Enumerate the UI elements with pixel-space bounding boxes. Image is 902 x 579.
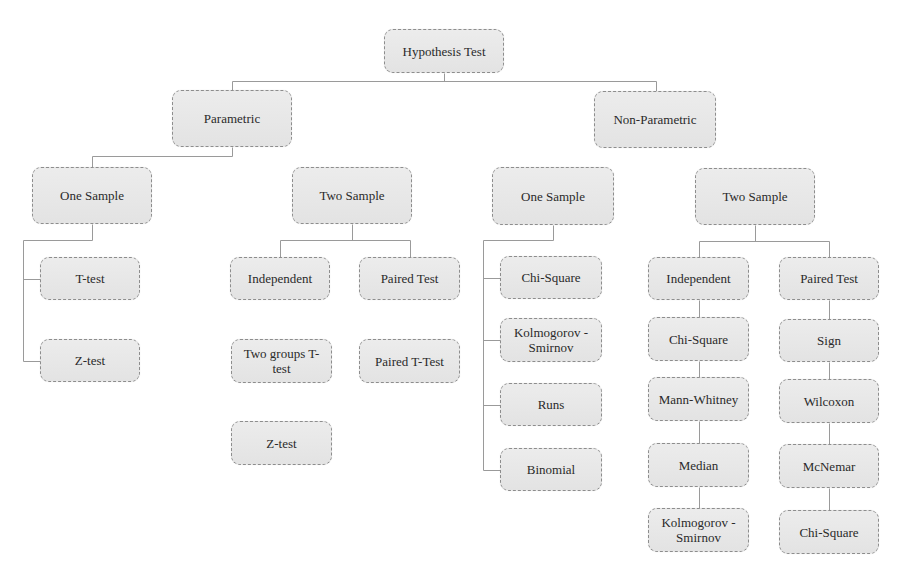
- node-mann-whitney: Mann-Whitney: [648, 377, 749, 421]
- node-sign: Sign: [779, 319, 879, 362]
- node-label: Z-test: [266, 436, 296, 451]
- node-label: One Sample: [60, 188, 124, 203]
- node-label: Kolmogorov - Smirnov: [655, 515, 742, 545]
- node-label: Runs: [538, 397, 565, 412]
- node-parametric-one-sample: One Sample: [32, 167, 152, 224]
- node-label: Mann-Whitney: [659, 392, 738, 407]
- node-paired-chi-square: Chi-Square: [779, 510, 879, 554]
- node-t-test: T-test: [40, 257, 140, 300]
- node-label: Non-Parametric: [613, 112, 696, 127]
- node-label: Two Sample: [319, 188, 384, 203]
- node-label: Kolmogorov - Smirnov: [507, 325, 595, 355]
- node-label: Median: [679, 458, 719, 473]
- node-label: One Sample: [521, 189, 585, 204]
- node-label: Paired Test: [381, 271, 439, 286]
- node-two-groups-t-test: Two groups T-test: [231, 339, 332, 383]
- node-label: Chi-Square: [799, 525, 858, 540]
- node-independent-chi-square: Chi-Square: [648, 317, 749, 361]
- node-label: McNemar: [803, 459, 856, 474]
- node-label: Chi-Square: [669, 332, 728, 347]
- node-nonparametric-one-sample: One Sample: [492, 167, 614, 225]
- node-label: Binomial: [527, 462, 575, 477]
- node-label: Two groups T-test: [238, 346, 325, 376]
- node-label: Hypothesis Test: [403, 44, 486, 59]
- node-median: Median: [648, 443, 749, 487]
- hypothesis-test-diagram: Hypothesis Test Parametric Non-Parametri…: [0, 0, 902, 579]
- node-one-sample-chi-square: Chi-Square: [500, 256, 602, 299]
- node-label: Two Sample: [722, 189, 787, 204]
- node-nonparametric-independent: Independent: [648, 257, 749, 300]
- node-parametric-paired-test: Paired Test: [359, 257, 460, 300]
- node-label: Sign: [817, 333, 841, 348]
- node-label: Paired Test: [800, 271, 858, 286]
- node-binomial: Binomial: [500, 448, 602, 491]
- node-runs: Runs: [500, 383, 602, 426]
- node-independent-z-test: Z-test: [231, 421, 332, 465]
- node-hypothesis-test: Hypothesis Test: [384, 29, 504, 73]
- node-nonparametric-two-sample: Two Sample: [695, 168, 815, 225]
- node-independent-kolmogorov-smirnov: Kolmogorov - Smirnov: [648, 508, 749, 552]
- node-parametric-two-sample: Two Sample: [292, 167, 412, 224]
- node-label: Z-test: [75, 353, 105, 368]
- node-wilcoxon: Wilcoxon: [779, 379, 879, 423]
- node-label: Wilcoxon: [804, 394, 855, 409]
- node-parametric: Parametric: [172, 90, 292, 147]
- node-label: Independent: [666, 271, 730, 286]
- node-label: Parametric: [204, 111, 260, 126]
- node-one-sample-kolmogorov-smirnov: Kolmogorov - Smirnov: [500, 318, 602, 362]
- node-paired-t-test: Paired T-Test: [359, 339, 460, 383]
- node-label: Paired T-Test: [375, 354, 444, 369]
- node-nonparametric-paired-test: Paired Test: [779, 257, 879, 300]
- node-parametric-independent: Independent: [230, 257, 330, 300]
- node-label: Independent: [248, 271, 312, 286]
- node-non-parametric: Non-Parametric: [594, 91, 716, 148]
- node-label: T-test: [75, 271, 104, 286]
- node-label: Chi-Square: [521, 270, 580, 285]
- node-mcnemar: McNemar: [779, 444, 879, 488]
- node-z-test: Z-test: [40, 339, 140, 382]
